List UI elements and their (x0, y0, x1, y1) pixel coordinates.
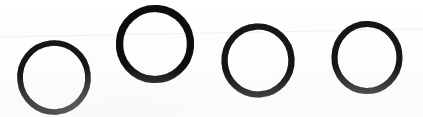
hand-drawn-circle-4 (333, 23, 400, 92)
hand-drawn-circle-1 (17, 40, 92, 116)
ink-drawing-layer (0, 0, 423, 117)
hand-drawn-circle-2 (117, 6, 193, 82)
hand-drawn-circle-3 (223, 25, 293, 96)
circle-group (17, 6, 401, 115)
scanned-drawing-canvas (0, 0, 423, 117)
faint-scan-line (0, 29, 423, 37)
